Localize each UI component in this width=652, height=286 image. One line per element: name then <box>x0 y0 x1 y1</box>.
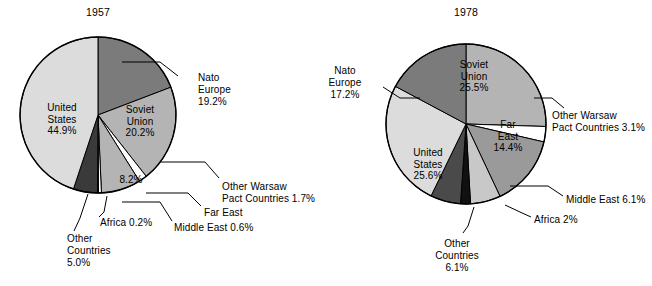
chart-1978: 1978Soviet Union 25.5%Other Warsaw Pact … <box>329 6 646 273</box>
callout-label-other-warsaw-pact-countries: Other WarsawPact Countries 3.1% <box>552 110 645 133</box>
slice-label-soviet-union: SovietUnion20.2% <box>126 104 155 138</box>
callout-label-other-countries: OtherCountries5.0% <box>67 233 111 268</box>
callout-label-middle-east: Middle East 6.1% <box>566 194 645 205</box>
chart-canvas: 1957Nato Europe 19.2%Soviet Union 20.2%O… <box>0 0 652 286</box>
leader-line-africa <box>99 196 107 217</box>
leader-line-middle-east <box>510 186 563 196</box>
chart-1978-title: 1978 <box>454 6 478 18</box>
chart-1957-title: 1957 <box>86 6 110 18</box>
slice-label-united-states: UnitedStates25.6% <box>413 147 443 181</box>
callout-label-nato-europe: NatoEurope19.2% <box>198 72 231 107</box>
leader-line-africa <box>505 205 531 217</box>
chart-1957: 1957Nato Europe 19.2%Soviet Union 20.2%O… <box>20 6 315 268</box>
leader-line-other-warsaw-pact-countries <box>160 162 219 178</box>
slice-label-soviet-union: SovietUnion25.5% <box>460 59 489 93</box>
callout-label-nato-europe: NatoEurope17.2% <box>329 65 362 100</box>
callout-label-africa: Africa 0.2% <box>100 217 152 228</box>
leader-line-other-countries <box>463 207 474 233</box>
leader-line-far-east <box>146 193 201 206</box>
slice-label-united-states: UnitedStates44.9% <box>47 102 77 136</box>
callout-label-other-countries: OtherCountries6.1% <box>435 238 479 273</box>
slice-label-far-east: 8.2% <box>119 174 142 185</box>
callout-label-middle-east: Middle East 0.6% <box>174 222 253 233</box>
callout-label-far-east: Far East <box>204 207 243 218</box>
callout-label-africa: Africa 2% <box>534 214 578 225</box>
leader-line-other-countries <box>74 194 88 231</box>
pie-charts-figure: 1957Nato Europe 19.2%Soviet Union 20.2%O… <box>0 0 652 286</box>
callout-label-other-warsaw-pact-countries: Other WarsawPact Countries 1.7% <box>222 181 315 204</box>
